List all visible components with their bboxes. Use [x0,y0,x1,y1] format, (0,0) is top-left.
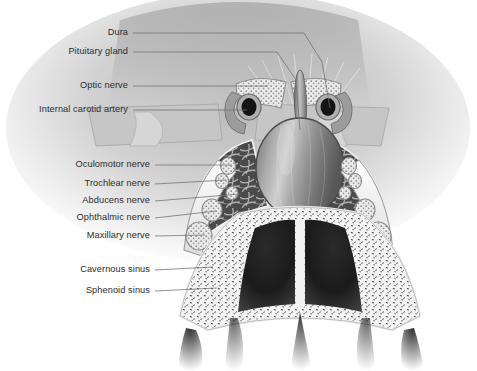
label-optic-nerve: Optic nerve [80,81,128,90]
label-pituitary-gland: Pituitary gland [68,47,128,56]
ophthalmic-nerve-section [202,199,222,221]
sphenoid-sinus [238,219,362,312]
trochlear-nerve-section [216,174,229,189]
oculomotor-nerve-section [221,158,236,175]
label-maxillary-nerve: Maxillary nerve [87,231,150,240]
label-dura: Dura [108,28,128,37]
abducens-nerve-section [226,187,238,200]
label-trochlear-nerve: Trochlear nerve [85,179,150,188]
label-oculomotor-nerve: Oculomotor nerve [76,160,151,169]
label-internal-carotid-artery: Internal carotid artery [39,105,128,114]
sphenoid-septum [296,219,305,307]
label-cavernous-sinus: Cavernous sinus [80,265,150,274]
label-abducens-nerve: Abducens nerve [82,196,150,205]
illustration-figure: DuraPituitary glandOptic nerveInternal c… [0,0,477,371]
label-sphenoid-sinus: Sphenoid sinus [86,286,150,295]
label-ophthalmic-nerve: Ophthalmic nerve [77,213,150,222]
